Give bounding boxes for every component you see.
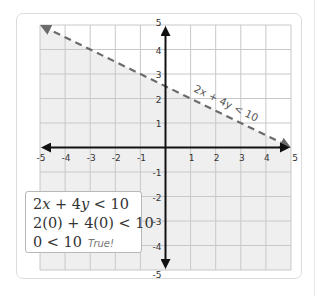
var-y: y xyxy=(81,196,89,212)
verdict-label: True! xyxy=(88,238,114,249)
y-tick-label: 1 xyxy=(156,119,162,129)
x-tick-label: -2 xyxy=(112,153,121,163)
x-tick-label: 2 xyxy=(214,153,220,163)
y-tick-label: -3 xyxy=(153,217,162,227)
x-tick-label: 1 xyxy=(189,153,195,163)
x-tick-label: -5 xyxy=(37,153,46,163)
substitution-line: 2(0) + 4(0) < 10 xyxy=(33,214,141,233)
x-tick-label: -3 xyxy=(87,153,96,163)
y-tick-label: -4 xyxy=(153,242,162,252)
y-tick-label: 3 xyxy=(156,70,162,80)
y-tick-label: 2 xyxy=(156,95,162,105)
y-tick-label: -2 xyxy=(153,193,162,203)
y-tick-label: -5 xyxy=(153,270,162,280)
x-tick-label: 5 xyxy=(292,153,298,163)
result-line: 0 < 10True! xyxy=(33,233,141,253)
x-tick-label: -4 xyxy=(62,153,71,163)
y-tick-label: -1 xyxy=(153,168,162,178)
less-than-10: < 10 xyxy=(89,196,129,212)
y-tick-label: 4 xyxy=(156,46,162,56)
y-tick-label: 5 xyxy=(156,18,162,28)
x-tick-label: 3 xyxy=(239,153,245,163)
x-tick-label: -1 xyxy=(137,153,146,163)
coef-2: 2 xyxy=(33,196,42,212)
origin-test-box: 2x + 4y < 10 2(0) + 4(0) < 10 0 < 10True… xyxy=(25,191,142,253)
inequality-line: 2x + 4y < 10 xyxy=(33,195,141,214)
result-expression: 0 < 10 xyxy=(33,234,82,250)
x-tick-label: 4 xyxy=(264,153,270,163)
plus-4: + 4 xyxy=(50,196,81,212)
